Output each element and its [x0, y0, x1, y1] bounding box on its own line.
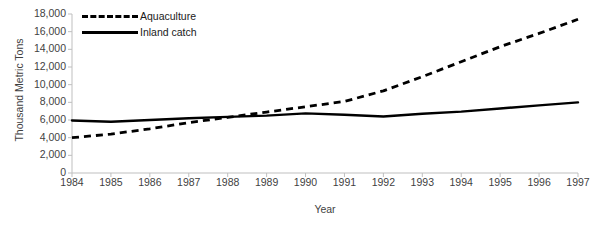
legend-label-aquaculture: Aquaculture — [140, 10, 196, 22]
legend-item-aquaculture: Aquaculture — [82, 8, 197, 24]
chart-legend: Aquaculture Inland catch — [82, 8, 197, 40]
legend-item-inland-catch: Inland catch — [82, 24, 197, 40]
x-axis-title: Year — [72, 203, 578, 215]
legend-label-inland-catch: Inland catch — [140, 26, 197, 38]
chart-container: Thousand Metric Tons 02,0004,0006,0008,0… — [0, 0, 598, 228]
legend-swatch-solid-icon — [82, 27, 138, 37]
y-axis-ticks — [68, 14, 72, 173]
legend-swatch-dashed-icon — [82, 11, 138, 21]
x-tick-label: 1997 — [555, 176, 598, 188]
